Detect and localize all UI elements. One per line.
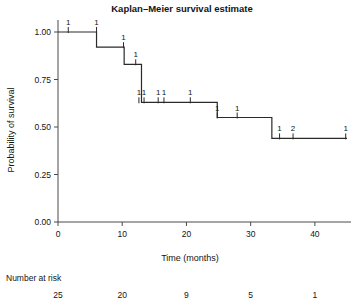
x-axis-ticks: 010203040 — [56, 222, 320, 239]
y-tick-label: 0.00 — [34, 217, 51, 227]
censor-count-label: 1 — [94, 18, 99, 27]
censor-count-label: 1 — [162, 88, 167, 97]
number-at-risk-value: 1 — [313, 290, 318, 300]
number-at-risk-value: 20 — [117, 290, 127, 300]
x-tick-label: 10 — [117, 229, 127, 239]
axis-spine — [58, 20, 351, 222]
censor-count-label: 1 — [235, 104, 240, 113]
censor-count-label: 1 — [156, 88, 161, 97]
censor-count-label: 1 — [277, 124, 282, 133]
x-tick-label: 20 — [182, 229, 192, 239]
number-at-risk-title: Number at risk — [6, 273, 62, 283]
number-at-risk-group: Number at risk — [6, 273, 62, 283]
number-at-risk-value: 25 — [53, 290, 63, 300]
y-tick-label: 0.25 — [34, 170, 51, 180]
x-axis-title: Time (months) — [161, 253, 219, 263]
km-step-curve — [58, 32, 347, 138]
kaplan-meier-figure: Kaplan–Meier survival estimate Probabili… — [0, 0, 357, 305]
number-at-risk-value: 9 — [184, 290, 189, 300]
axes — [58, 20, 351, 222]
x-axis-title-group: Time (months) — [161, 253, 219, 263]
survival-plot: Kaplan–Meier survival estimate Probabili… — [0, 0, 357, 305]
censor-count-label: 1 — [142, 88, 147, 97]
x-tick-label: 40 — [310, 229, 320, 239]
censoring-marks: 11111111111121 — [66, 18, 348, 139]
page-title: Kaplan–Meier survival estimate — [111, 3, 253, 14]
y-tick-label: 1.00 — [34, 27, 51, 37]
y-tick-label: 0.75 — [34, 75, 51, 85]
censor-count-label: 2 — [291, 124, 296, 133]
censor-count-label: 1 — [133, 50, 138, 59]
censor-count-label: 1 — [121, 33, 126, 42]
number-at-risk-values: 2520951 — [53, 290, 317, 300]
plot-title-group: Kaplan–Meier survival estimate — [111, 3, 253, 14]
censor-count-label: 1 — [343, 124, 348, 133]
censor-count-label: 1 — [66, 18, 71, 27]
km-curve-path — [58, 32, 347, 138]
y-tick-label: 0.50 — [34, 122, 51, 132]
censor-count-label: 1 — [215, 104, 220, 113]
censor-count-label: 1 — [188, 88, 193, 97]
y-axis-title: Probability of survival — [6, 87, 16, 172]
number-at-risk-value: 5 — [248, 290, 253, 300]
y-axis-title-group: Probability of survival — [6, 87, 16, 172]
y-axis-ticks: 0.000.250.500.751.00 — [34, 27, 58, 227]
x-tick-label: 30 — [246, 229, 256, 239]
x-tick-label: 0 — [56, 229, 61, 239]
